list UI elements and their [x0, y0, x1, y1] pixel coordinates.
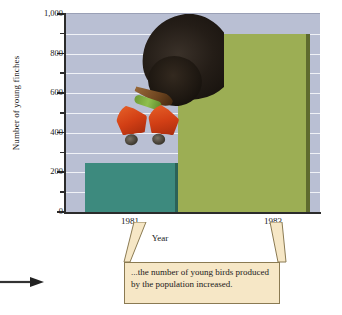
finch-population-figure: 1,000 800 600 400 200 0 Number of young … — [0, 0, 342, 315]
y-label-0: 0 — [13, 207, 63, 216]
callout-box: ...the number of young birds produced by… — [124, 262, 280, 304]
bar-1983-side — [306, 34, 310, 212]
callout-text: ...the number of young birds produced by… — [131, 267, 273, 290]
y-tick-900 — [60, 33, 65, 35]
y-axis-title: Number of young finches — [11, 33, 21, 173]
x-axis-line — [64, 212, 321, 214]
left-arrow-icon — [0, 276, 46, 288]
callout-pointer — [120, 222, 290, 266]
y-tick-500 — [60, 112, 65, 114]
finch-feeding-photo — [112, 14, 224, 174]
y-tick-100 — [60, 191, 65, 193]
y-tick-300 — [60, 152, 65, 154]
chick-right — [141, 103, 181, 174]
y-tick-700 — [60, 72, 65, 74]
y-label-1000: 1,000 — [13, 9, 63, 18]
chick-left-gape — [114, 102, 149, 136]
